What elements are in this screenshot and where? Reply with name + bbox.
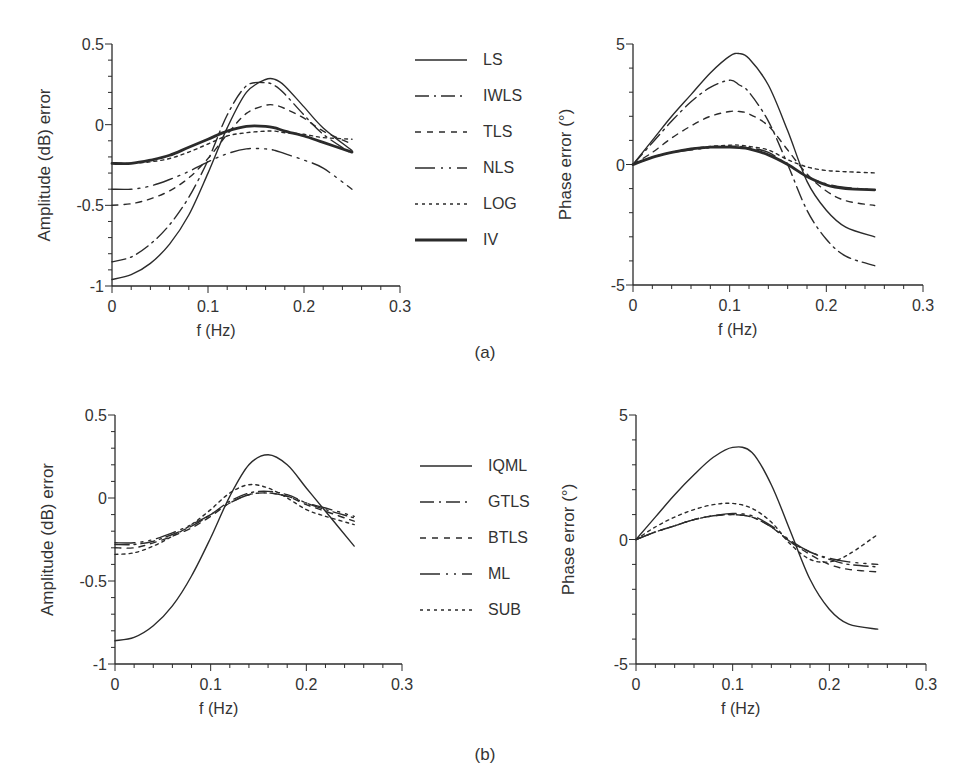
x-axis-label: f (Hz) xyxy=(721,700,760,717)
series-line-nls xyxy=(112,148,352,189)
plot-a-phase: 00.10.20.350-5f (Hz)Phase error (°) xyxy=(556,36,934,338)
y-tick-label: 0.5 xyxy=(85,407,107,424)
x-tick-label: 0.2 xyxy=(295,676,317,693)
series-line-iwls xyxy=(633,80,875,266)
series-line-iv xyxy=(633,147,875,190)
x-tick-label: 0.3 xyxy=(389,298,411,315)
x-tick-label: 0.1 xyxy=(197,298,219,315)
y-axis-label: Amplitude (dB) error xyxy=(35,88,54,241)
legend-label: TLS xyxy=(483,123,512,141)
y-tick-label: 0 xyxy=(616,157,625,174)
legend-item-iwls: IWLS xyxy=(413,78,522,114)
legend-label: GTLS xyxy=(488,493,530,511)
series-line-log xyxy=(112,131,352,164)
y-tick-label: -5 xyxy=(614,656,628,673)
y-tick-label: 5 xyxy=(616,36,625,53)
legend-item-iqml: IQML xyxy=(418,448,530,484)
x-tick-label: 0.2 xyxy=(815,297,837,314)
legend-item-sub: SUB xyxy=(418,592,530,628)
legend-label: BTLS xyxy=(488,529,528,547)
legend-swatch-solid xyxy=(418,461,474,471)
legend-label: ML xyxy=(488,565,510,583)
series-line-sub xyxy=(636,503,878,562)
legend-item-ml: ML xyxy=(418,556,530,592)
series-line-gtls xyxy=(115,491,354,544)
legend-swatch-dash xyxy=(418,533,474,543)
legend-swatch-solid xyxy=(413,55,469,65)
x-tick-label: 0.1 xyxy=(722,676,744,693)
legend-item-tls: TLS xyxy=(413,114,522,150)
plot-b-amplitude: 00.10.20.30.50-0.5-1f (Hz)Amplitude (dB)… xyxy=(38,407,413,717)
y-axis-label: Phase error (°) xyxy=(556,109,575,221)
legend-item-ls: LS xyxy=(413,42,522,78)
x-axis-label: f (Hz) xyxy=(718,321,757,338)
x-tick-label: 0 xyxy=(632,676,641,693)
series-line-ls xyxy=(633,53,875,236)
panel-label-b: (b) xyxy=(475,745,496,765)
legend-item-iv: IV xyxy=(413,222,522,258)
legend-swatch-longdashdot xyxy=(418,569,474,579)
y-tick-label: 0 xyxy=(98,490,107,507)
legend-swatch-dashdot xyxy=(418,497,474,507)
legend-swatch-thick xyxy=(413,235,469,245)
y-axis-label: Amplitude (dB) error xyxy=(38,463,57,616)
legend-label: IWLS xyxy=(483,87,522,105)
series-line-gtls xyxy=(636,515,878,567)
series-line-iqml xyxy=(636,447,878,629)
y-tick-label: 0 xyxy=(95,117,104,134)
series-line-ls xyxy=(112,78,352,279)
legend-item-gtls: GTLS xyxy=(418,484,530,520)
series-line-iwls xyxy=(112,82,352,262)
legend-item-btls: BTLS xyxy=(418,520,530,556)
x-tick-label: 0.1 xyxy=(719,297,741,314)
x-tick-label: 0 xyxy=(111,676,120,693)
y-tick-label: 0 xyxy=(619,532,628,549)
legend-swatch-dashdot xyxy=(413,91,469,101)
legend-label: IV xyxy=(483,231,498,249)
legend-item-log: LOG xyxy=(413,186,522,222)
x-tick-label: 0.2 xyxy=(818,676,840,693)
x-axis-label: f (Hz) xyxy=(199,700,238,717)
legend-label: LS xyxy=(483,51,503,69)
x-axis-label: f (Hz) xyxy=(196,322,235,339)
y-tick-label: 0.5 xyxy=(82,36,104,53)
x-tick-label: 0 xyxy=(108,298,117,315)
legend-label: LOG xyxy=(483,195,517,213)
legend-item-nls: NLS xyxy=(413,150,522,186)
y-tick-label: -1 xyxy=(90,278,104,295)
series-line-tls xyxy=(633,111,875,205)
y-tick-label: 5 xyxy=(619,407,628,424)
x-tick-label: 0.3 xyxy=(912,297,934,314)
y-tick-label: -1 xyxy=(93,656,107,673)
legend-swatch-dash xyxy=(413,127,469,137)
x-tick-label: 0.2 xyxy=(293,298,315,315)
x-tick-label: 0 xyxy=(629,297,638,314)
legend-panel-b: IQMLGTLSBTLSMLSUB xyxy=(418,448,530,628)
legend-label: NLS xyxy=(483,159,514,177)
legend-panel-a: LSIWLSTLSNLSLOGIV xyxy=(413,42,522,258)
legend-swatch-dot xyxy=(413,199,469,209)
legend-label: IQML xyxy=(488,457,527,475)
y-tick-label: -5 xyxy=(611,277,625,294)
plot-a-amplitude: 00.10.20.30.50-0.5-1f (Hz)Amplitude (dB)… xyxy=(35,36,411,339)
series-line-ml xyxy=(115,493,354,543)
x-tick-label: 0.1 xyxy=(200,676,222,693)
series-line-ml xyxy=(636,513,878,564)
y-tick-label: -0.5 xyxy=(76,197,104,214)
y-axis-label: Phase error (°) xyxy=(559,484,578,596)
legend-swatch-longdashdot xyxy=(413,163,469,173)
legend-label: SUB xyxy=(488,601,521,619)
panel-label-a: (a) xyxy=(475,343,496,363)
y-tick-label: -0.5 xyxy=(79,573,107,590)
x-tick-label: 0.3 xyxy=(915,676,937,693)
series-line-iv xyxy=(112,126,352,164)
legend-swatch-dot xyxy=(418,605,474,615)
plot-b-phase: 00.10.20.350-5f (Hz)Phase error (°) xyxy=(559,407,937,717)
x-tick-label: 0.3 xyxy=(391,676,413,693)
